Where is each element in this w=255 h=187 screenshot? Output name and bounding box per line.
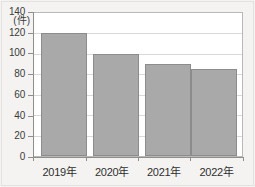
y-axis-line (33, 12, 34, 158)
y-tick-120 (28, 33, 33, 34)
y-tick-20 (28, 136, 33, 137)
x-axis-label-2020: 2020年 (86, 166, 138, 178)
y-tick-100 (28, 53, 33, 54)
x-tick-start (33, 157, 34, 161)
y-axis-label-20: 20 (0, 131, 25, 141)
x-tick-end (243, 157, 244, 161)
y-axis-unit-label: (件) (4, 16, 30, 26)
x-axis-label-2019: 2019年 (33, 166, 86, 178)
bar-2020 (93, 54, 139, 156)
bar-chart: 140 (件) 120 100 80 60 40 20 0 2019年 2020… (0, 0, 255, 187)
y-axis-label-60: 60 (0, 90, 25, 100)
chart-page: 140 (件) 120 100 80 60 40 20 0 2019年 2020… (0, 0, 255, 187)
x-axis-label-2021: 2021年 (138, 166, 190, 178)
x-axis-label-2022: 2022年 (190, 166, 243, 178)
y-axis-label-80: 80 (0, 69, 25, 79)
bar-series (34, 13, 242, 156)
x-tick-3 (190, 157, 191, 161)
plot-area (33, 12, 243, 157)
y-axis-label-40: 40 (0, 111, 25, 121)
y-tick-80 (28, 74, 33, 75)
x-tick-2 (138, 157, 139, 161)
y-tick-40 (28, 116, 33, 117)
y-axis-label-100: 100 (0, 48, 25, 58)
bar-2022 (191, 69, 237, 156)
bar-2021 (145, 64, 191, 156)
y-axis-label-0: 0 (0, 152, 25, 162)
bar-2019 (41, 33, 87, 156)
x-tick-1 (86, 157, 87, 161)
y-tick-140 (28, 12, 33, 13)
y-tick-60 (28, 95, 33, 96)
y-axis-label-120: 120 (0, 28, 25, 38)
